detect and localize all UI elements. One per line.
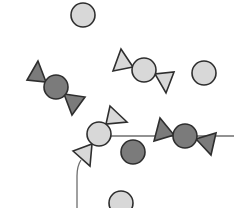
circle-icon xyxy=(44,75,68,99)
background xyxy=(0,0,234,208)
circle-right xyxy=(192,61,216,85)
circle-bottom xyxy=(109,191,133,208)
circle-icon xyxy=(87,122,111,146)
circle-icon xyxy=(132,58,156,82)
diagram-canvas xyxy=(0,0,234,208)
circle-icon xyxy=(173,124,197,148)
circle-top xyxy=(71,3,95,27)
circle-dark-center xyxy=(121,140,145,164)
